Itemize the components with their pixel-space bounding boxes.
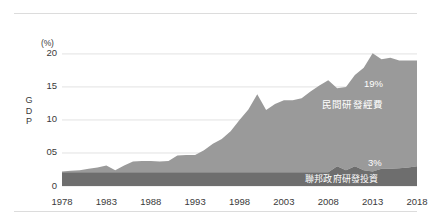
annotation-private-series: 民間研發經費 <box>322 97 383 111</box>
y-tick-label: 0 <box>35 180 57 191</box>
y-axis-title-char-d: D <box>24 106 34 117</box>
annotation-private-value: 19% <box>364 78 383 89</box>
y-axis-title: G D P <box>24 95 34 127</box>
x-tick-label: 1988 <box>140 196 161 207</box>
y-axis-title-char-p: P <box>24 116 34 127</box>
x-tick-label: 2003 <box>273 196 294 207</box>
x-tick-label: 2018 <box>406 196 427 207</box>
y-tick-label: 20 <box>35 47 57 58</box>
x-tick-label: 2013 <box>362 196 383 207</box>
chart-plot-svg <box>0 0 431 224</box>
x-tick-label: 1998 <box>229 196 250 207</box>
x-tick-label: 1993 <box>185 196 206 207</box>
x-tick-label: 1983 <box>96 196 117 207</box>
y-tick-label: 10 <box>35 113 57 124</box>
chart-figure: (%) G D P 005101520 19781983198819931998… <box>0 0 431 224</box>
x-tick-label: 1978 <box>51 196 72 207</box>
annotation-federal-value: 3% <box>368 157 382 168</box>
annotation-federal-series: 聯邦政府研發投資 <box>305 172 379 185</box>
y-tick-label: 05 <box>35 146 57 157</box>
y-tick-label: 15 <box>35 80 57 91</box>
x-tick-label: 2008 <box>318 196 339 207</box>
y-axis-title-char-g: G <box>24 95 34 106</box>
area-series-private <box>62 53 417 172</box>
stacked-area-chart <box>0 0 431 224</box>
